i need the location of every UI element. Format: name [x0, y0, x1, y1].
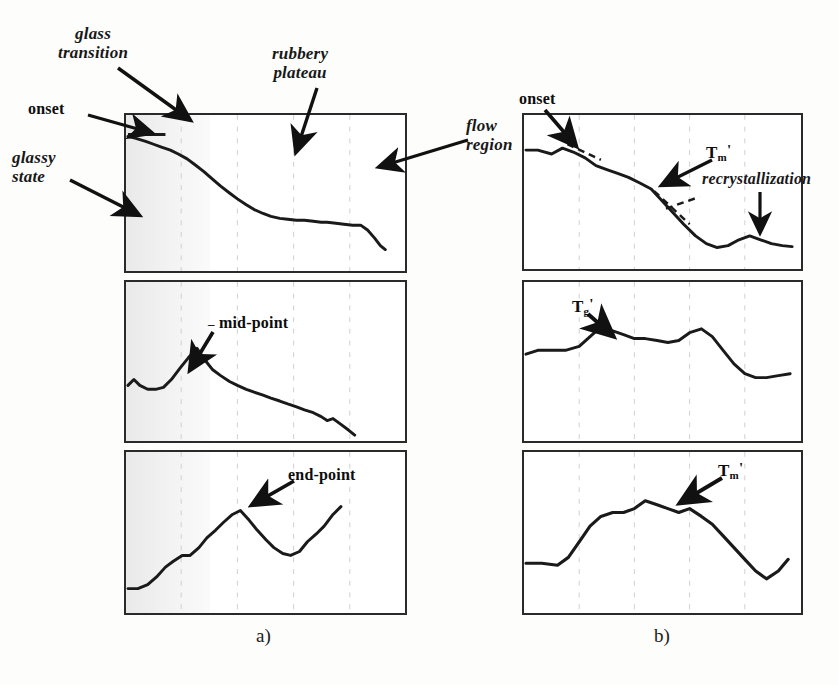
panel-a-mid — [124, 280, 407, 443]
label-flow-region: flow region — [466, 116, 513, 154]
label-tm-prime-top: Tm' — [706, 142, 731, 163]
label-mid-point-text: mid-point — [219, 314, 288, 331]
curve-a-mid — [128, 348, 355, 435]
label-end-point: end-point — [288, 466, 356, 484]
plot-b-top — [524, 115, 801, 269]
label-glass-transition: glass transition — [58, 24, 128, 62]
panel-b-top — [522, 113, 803, 271]
panel-b-mid — [522, 280, 803, 443]
curve-a-bottom — [128, 507, 341, 589]
label-onset-left: onset — [28, 100, 65, 118]
gridlines-a-top — [181, 115, 350, 271]
curve-b-top — [526, 148, 792, 247]
plot-b-mid — [524, 282, 801, 441]
plot-b-bottom — [524, 452, 801, 613]
plot-a-bottom — [126, 452, 405, 613]
curve-b-bottom — [526, 501, 788, 579]
caption-a: a) — [256, 625, 271, 647]
curve-b-mid — [526, 327, 790, 378]
panel-a-bottom — [124, 450, 407, 615]
plot-a-mid — [126, 282, 405, 441]
label-recrystallization: recrystallization — [702, 170, 811, 188]
tm-top-sub: m — [718, 151, 727, 163]
plot-a-top — [126, 115, 405, 271]
panel-a-top — [124, 113, 407, 273]
gridlines-b-mid — [579, 282, 745, 441]
tg-mid-base: T — [572, 297, 584, 316]
tm-tangent2-b-top — [666, 197, 700, 209]
caption-b: b) — [654, 625, 670, 647]
label-rubbery-plateau: rubbery plateau — [272, 44, 328, 82]
label-mid-point: – mid-point — [208, 314, 288, 332]
tm-top-prime: ' — [727, 142, 731, 158]
tm-top-base: T — [706, 143, 718, 162]
tm-bottom-prime: ' — [739, 460, 743, 476]
panel-b-bottom — [522, 450, 803, 615]
tg-mid-prime: ' — [589, 296, 593, 312]
tm-bottom-sub: m — [730, 469, 739, 481]
curve-a-top — [128, 136, 385, 249]
label-onset-right: onset — [519, 90, 556, 108]
label-tg-prime-mid: Tg' — [572, 296, 594, 317]
label-glassy-state: glassy state — [12, 148, 56, 186]
tm-bottom-base: T — [718, 461, 730, 480]
label-tm-prime-bottom: Tm' — [718, 460, 743, 481]
figure-root: glass transition onset rubbery plateau g… — [0, 0, 838, 685]
